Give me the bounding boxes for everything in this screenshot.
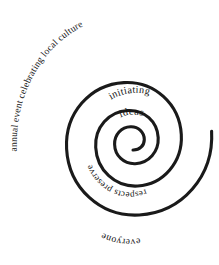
spiral-diagram-canvas: annual event celebrating local culture i… bbox=[0, 0, 219, 265]
spiral-label-everyone-text: everyone bbox=[99, 231, 142, 248]
spiral-label-everyone: everyone bbox=[99, 231, 142, 248]
spiral-label-initiating: initiating bbox=[106, 84, 151, 102]
spiral-stroke bbox=[66, 83, 211, 216]
spiral-label-outer-arc: annual event celebrating local culture bbox=[8, 18, 85, 152]
spiral-label-ideas-text: ideas bbox=[117, 105, 146, 119]
spiral-diagram-svg: annual event celebrating local culture i… bbox=[0, 0, 219, 265]
spiral-label-outer-arc-text: annual event celebrating local culture bbox=[8, 18, 85, 152]
spiral-label-ideas: ideas bbox=[117, 105, 146, 119]
spiral-label-initiating-text: initiating bbox=[106, 84, 151, 102]
